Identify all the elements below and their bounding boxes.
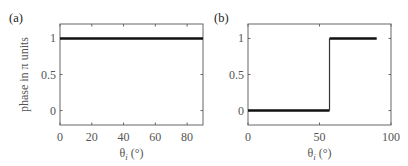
y-tick-label: 0.5	[41, 68, 56, 82]
x-tick-label: 60	[149, 130, 161, 144]
y-tick-label: 1	[50, 31, 56, 45]
x-tick-label: 80	[181, 130, 193, 144]
y-tick-label: 1	[238, 31, 244, 45]
x-tick-label: 0	[245, 130, 251, 144]
y-tick-label: 0.5	[229, 68, 244, 82]
x-tick-label: 0	[57, 130, 63, 144]
x-tick-label: 50	[314, 130, 326, 144]
figure: (a)02040608000.51θi (°)phase in π units …	[0, 0, 408, 166]
panel-label: (a)	[9, 11, 23, 25]
panel-b: (b)05010000.51θi (°)	[214, 11, 400, 162]
panel-label: (b)	[214, 11, 229, 25]
x-axis-label: θi (°)	[307, 146, 331, 162]
x-tick-label: 20	[86, 130, 98, 144]
y-axis-label: phase in π units	[17, 37, 31, 112]
y-tick-label: 0	[238, 104, 244, 118]
panel-a: (a)02040608000.51θi (°)phase in π units	[9, 11, 203, 162]
y-tick-label: 0	[50, 104, 56, 118]
x-tick-label: 40	[118, 130, 130, 144]
x-tick-label: 100	[382, 130, 400, 144]
x-axis-label: θi (°)	[119, 146, 143, 162]
